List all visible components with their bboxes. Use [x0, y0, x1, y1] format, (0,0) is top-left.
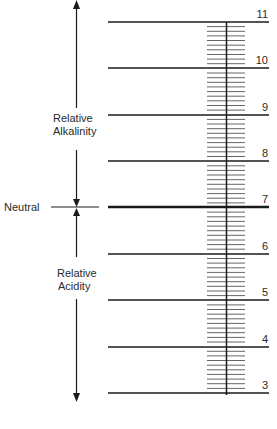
- tick-label-8: 8: [262, 147, 268, 159]
- acidity-label-line2: Acidity: [58, 280, 91, 292]
- tick-label-7: 7: [262, 193, 268, 205]
- alkalinity-label-line1: Relative: [53, 112, 93, 124]
- ph-scale-diagram: 11 10 9 8 7 6 5 4 3 Relative Alkalinity …: [0, 0, 277, 429]
- tick-label-3: 3: [262, 379, 268, 391]
- neutral-label: Neutral: [4, 201, 39, 213]
- tick-label-11: 11: [257, 8, 268, 20]
- arrow-down-icon: [73, 199, 80, 207]
- acidity-label-line1: Relative: [57, 267, 97, 279]
- tick-label-5: 5: [262, 286, 268, 298]
- tick-label-6: 6: [262, 240, 268, 252]
- arrow-down-icon: [73, 393, 80, 402]
- tick-label-9: 9: [262, 101, 268, 113]
- arrow-up-icon: [73, 208, 80, 216]
- arrow-up-icon: [73, 0, 80, 9]
- tick-labels: 11 10 9 8 7 6 5 4 3: [256, 8, 268, 391]
- acidity-arrow: [73, 208, 80, 402]
- alkalinity-label-line2: Alkalinity: [53, 125, 97, 137]
- tick-label-4: 4: [262, 333, 268, 345]
- tick-label-10: 10: [256, 54, 268, 66]
- alkalinity-arrow: [73, 0, 80, 207]
